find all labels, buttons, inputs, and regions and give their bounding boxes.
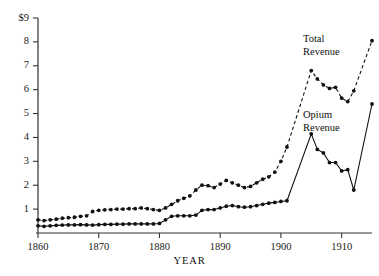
data-point-marker	[206, 208, 210, 212]
data-point-marker	[103, 208, 107, 212]
data-point-marker	[151, 222, 155, 226]
data-point-marker	[322, 83, 326, 87]
data-point-marker	[188, 214, 192, 218]
data-point-marker	[285, 199, 289, 203]
data-point-marker	[36, 224, 40, 228]
data-point-marker	[164, 218, 168, 222]
data-point-marker	[54, 223, 58, 227]
data-point-marker	[109, 223, 113, 227]
data-point-marker	[127, 222, 131, 226]
data-point-marker	[370, 102, 374, 106]
data-point-marker	[158, 222, 162, 226]
data-point-marker	[200, 183, 204, 187]
data-point-marker	[224, 204, 228, 208]
x-tick-label: 1880	[129, 242, 189, 253]
data-point-marker	[133, 207, 137, 211]
data-point-marker	[200, 208, 204, 212]
data-point-marker	[133, 222, 137, 226]
data-point-marker	[36, 218, 40, 222]
data-point-marker	[188, 194, 192, 198]
data-point-marker	[170, 202, 174, 206]
data-point-marker	[121, 222, 125, 226]
data-point-marker	[218, 182, 222, 186]
total-revenue-label: Total Revenue	[303, 33, 340, 59]
data-point-marker	[279, 200, 283, 204]
data-point-marker	[85, 223, 89, 227]
data-point-marker	[218, 206, 222, 210]
data-point-marker	[139, 206, 143, 210]
data-point-marker	[79, 214, 83, 218]
data-point-marker	[261, 177, 265, 181]
data-point-marker	[352, 89, 356, 93]
data-point-marker	[249, 185, 253, 189]
data-point-marker	[237, 205, 241, 209]
opium-revenue-label: Opium Revenue	[303, 109, 340, 135]
data-point-marker	[255, 204, 259, 208]
data-point-marker	[60, 216, 64, 220]
x-tick-label: 1860	[8, 242, 68, 253]
data-point-marker	[340, 169, 344, 173]
data-point-marker	[145, 222, 149, 226]
y-tick-label: $9	[0, 13, 29, 24]
data-point-marker	[370, 39, 374, 43]
data-point-marker	[267, 175, 271, 179]
data-point-marker	[103, 223, 107, 227]
data-point-marker	[54, 217, 58, 221]
opium-revenue-label-line2: Revenue	[303, 122, 340, 135]
data-point-marker	[352, 188, 356, 192]
data-point-marker	[328, 161, 332, 165]
data-point-marker	[48, 224, 52, 228]
data-point-marker	[255, 181, 259, 185]
data-point-marker	[315, 147, 319, 151]
y-tick-label: 2	[0, 180, 29, 191]
data-point-marker	[91, 210, 95, 214]
y-tick-label: 4	[0, 132, 29, 143]
data-point-marker	[73, 215, 77, 219]
data-point-marker	[230, 181, 234, 185]
data-point-marker	[261, 202, 265, 206]
revenue-line-chart: $987654321 186018701880189019001910 Tota…	[0, 0, 379, 276]
data-point-marker	[334, 161, 338, 165]
data-point-marker	[164, 206, 168, 210]
data-point-marker	[309, 69, 313, 73]
data-point-marker	[79, 223, 83, 227]
data-point-marker	[91, 223, 95, 227]
x-tick-label: 1910	[312, 242, 372, 253]
data-point-marker	[212, 186, 216, 190]
data-point-marker	[115, 207, 119, 211]
x-tick-label: 1870	[69, 242, 129, 253]
x-axis-title: YEAR	[0, 255, 379, 266]
data-point-marker	[230, 204, 234, 208]
y-tick-label: 8	[0, 36, 29, 47]
data-point-marker	[346, 100, 350, 104]
y-tick-label: 5	[0, 108, 29, 119]
data-point-marker	[334, 85, 338, 89]
y-tick-label: 1	[0, 204, 29, 215]
y-tick-label: 6	[0, 84, 29, 95]
data-point-marker	[109, 208, 113, 212]
opium-revenue-label-line1: Opium	[303, 109, 340, 122]
data-point-marker	[243, 186, 247, 190]
data-point-marker	[66, 216, 70, 220]
data-point-marker	[346, 168, 350, 172]
data-point-marker	[285, 145, 289, 149]
data-point-marker	[182, 214, 186, 218]
data-point-marker	[322, 151, 326, 155]
data-point-marker	[237, 183, 241, 187]
data-point-marker	[139, 222, 143, 226]
data-point-marker	[66, 223, 70, 227]
data-point-marker	[315, 77, 319, 81]
data-point-marker	[73, 223, 77, 227]
x-axis-ticks	[38, 233, 342, 238]
data-point-marker	[115, 222, 119, 226]
data-point-marker	[267, 201, 271, 205]
data-point-marker	[328, 87, 332, 91]
y-axis-ticks	[33, 18, 38, 209]
data-point-marker	[206, 184, 210, 188]
x-tick-label: 1900	[251, 242, 311, 253]
data-point-marker	[85, 214, 89, 218]
data-point-marker	[151, 208, 155, 212]
data-point-marker	[176, 199, 180, 203]
data-point-marker	[127, 207, 131, 211]
data-point-marker	[97, 208, 101, 212]
